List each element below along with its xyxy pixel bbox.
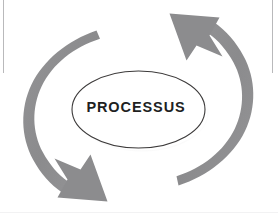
diagram-page: PROCESSUS xyxy=(0,0,278,215)
center-ellipse xyxy=(72,71,205,148)
process-cycle-diagram xyxy=(0,0,278,215)
